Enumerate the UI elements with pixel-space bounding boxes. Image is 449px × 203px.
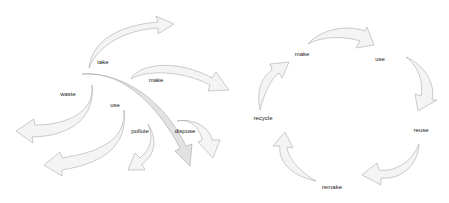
diagram-canvas <box>0 0 449 203</box>
label-make-circular: make <box>295 51 310 57</box>
label-reuse: reuse <box>413 127 428 133</box>
waste-arrow-icon <box>16 85 92 143</box>
remake-to-recycle-arrow-icon <box>273 132 316 181</box>
use-to-reuse-arrow-icon <box>406 57 437 111</box>
label-dispose: dispose <box>175 128 196 134</box>
reuse-to-remake-arrow-icon <box>362 144 419 185</box>
label-use-linear: use <box>110 102 120 108</box>
make-to-use-arrow-icon <box>308 27 374 48</box>
label-remake: remake <box>322 184 342 190</box>
label-recycle: recycle <box>253 115 272 121</box>
recycle-to-make-arrow-icon <box>259 62 289 110</box>
use-arrow-icon <box>44 110 124 176</box>
make-arrow-icon <box>131 65 229 91</box>
label-waste: waste <box>60 91 76 97</box>
label-take: take <box>97 59 108 65</box>
label-make-linear: make <box>149 77 164 83</box>
label-use-circular: use <box>375 56 385 62</box>
linear-economy-arrows <box>16 16 229 176</box>
label-pollute: pollute <box>131 128 149 134</box>
circular-economy-arrows <box>259 27 437 185</box>
